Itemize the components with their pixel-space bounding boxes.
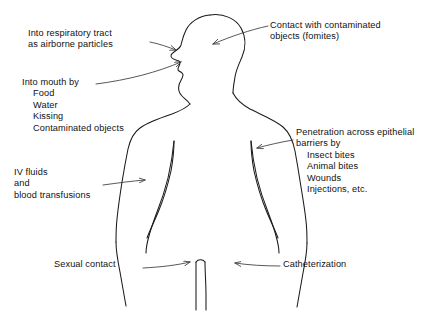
label-iv-line-3: blood transfusions — [14, 190, 90, 201]
label-sexual-contact: Sexual contact — [54, 259, 116, 270]
arrow-catheter — [235, 263, 280, 266]
label-into-mouth: Into mouth by Food Water Kissing Contami… — [22, 77, 124, 134]
label-mouth-item-food: Food — [22, 88, 124, 99]
label-iv-fluids: IV fluids and blood transfusions — [14, 167, 90, 201]
label-mouth-item-kissing: Kissing — [22, 111, 124, 122]
label-respiratory-tract: Into respiratory tract as airborne parti… — [28, 28, 113, 51]
label-penetration-item-injections: Injections, etc. — [296, 184, 414, 195]
label-penetration-line-2: barriers by — [296, 138, 414, 149]
label-respiratory-line-1: Into respiratory tract — [28, 28, 113, 39]
label-mouth-item-contaminated-objects: Contaminated objects — [22, 123, 124, 134]
label-contaminated-objects: Contact with contaminated objects (fomit… — [270, 20, 381, 43]
arrow-iv — [103, 180, 145, 185]
label-catheter-line-1: Catheterization — [283, 259, 346, 270]
label-respiratory-line-2: as airborne particles — [28, 39, 113, 50]
label-penetration-item-animal-bites: Animal bites — [296, 161, 414, 172]
label-penetration-epithelial: Penetration across epithelial barriers b… — [296, 127, 414, 195]
transmission-routes-diagram: Into respiratory tract as airborne parti… — [0, 0, 429, 312]
label-fomites-line-2: objects (fomites) — [270, 31, 381, 42]
arrow-respiratory — [150, 42, 176, 50]
label-fomites-line-1: Contact with contaminated — [270, 20, 381, 31]
label-mouth-item-water: Water — [22, 100, 124, 111]
arrow-fomites — [213, 26, 268, 44]
leader-arrows — [96, 26, 293, 268]
label-catheterization: Catheterization — [283, 259, 346, 270]
label-penetration-line-1: Penetration across epithelial — [296, 127, 414, 138]
label-penetration-item-wounds: Wounds — [296, 173, 414, 184]
arrow-sexual — [143, 262, 190, 268]
label-sexual-line-1: Sexual contact — [54, 259, 116, 270]
label-iv-line-2: and — [14, 178, 90, 189]
label-penetration-item-insect-bites: Insect bites — [296, 150, 414, 161]
arrow-penetration — [257, 140, 293, 148]
label-mouth-heading: Into mouth by — [22, 77, 124, 88]
label-iv-line-1: IV fluids — [14, 167, 90, 178]
